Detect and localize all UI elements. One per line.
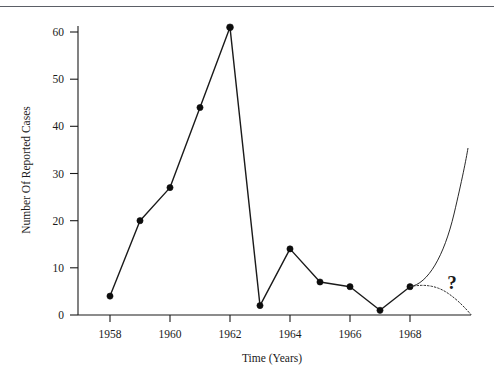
x-axis-tick-labels: 1958 1960 1962 1964 1966 1968: [99, 328, 422, 340]
line-chart: 0 10 20 30 40 50 60 1958 1960 1962 1964 …: [0, 0, 494, 375]
data-point-1965: [317, 279, 323, 285]
data-point-1960: [167, 185, 173, 191]
y-axis-title: Number Of Reported Cases: [20, 106, 33, 234]
data-point-1961: [197, 104, 203, 110]
data-point-1962: [227, 24, 234, 31]
x-tick-label-1960: 1960: [159, 328, 182, 340]
data-point-1964: [287, 246, 293, 252]
x-axis-title: Time (Years): [242, 352, 302, 365]
figure-root: 0 10 20 30 40 50 60 1958 1960 1962 1964 …: [0, 0, 494, 375]
uncertainty-question-mark: ?: [447, 272, 457, 293]
y-axis-tick-labels: 0 10 20 30 40 50 60: [53, 26, 65, 321]
y-tick-label-50: 50: [53, 73, 65, 85]
declining-projection-curve: [410, 285, 471, 314]
data-point-1963: [257, 303, 263, 309]
series-line-reported-cases: [110, 27, 410, 310]
x-tick-label-1964: 1964: [279, 328, 302, 340]
y-tick-label-20: 20: [53, 215, 65, 227]
x-tick-label-1958: 1958: [99, 328, 122, 340]
x-axis-ticks: [110, 315, 410, 322]
x-tick-label-1968: 1968: [399, 328, 422, 340]
x-tick-label-1966: 1966: [339, 328, 362, 340]
y-tick-label-0: 0: [58, 309, 64, 321]
series-markers: [107, 24, 413, 314]
data-point-1958: [107, 293, 113, 299]
y-axis-ticks: [70, 32, 78, 315]
data-point-1966: [347, 284, 353, 290]
y-tick-label-10: 10: [53, 262, 65, 274]
y-tick-label-60: 60: [53, 26, 65, 38]
y-tick-label-30: 30: [53, 168, 65, 180]
data-point-1959: [137, 218, 143, 224]
rising-projection-curve: [410, 148, 468, 287]
y-tick-label-40: 40: [53, 120, 65, 132]
data-point-1967: [377, 307, 383, 313]
x-tick-label-1962: 1962: [219, 328, 242, 340]
